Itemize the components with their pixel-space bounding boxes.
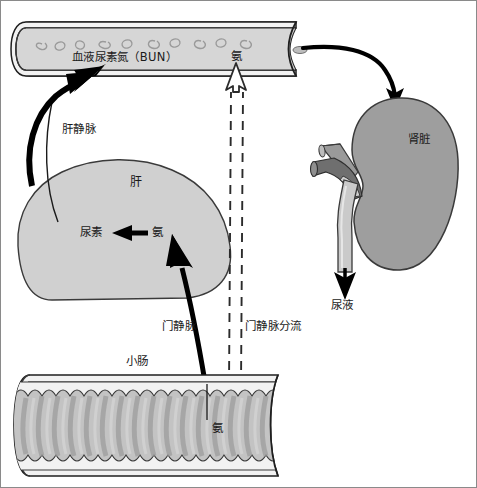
diagram-canvas: 血液尿素氮（BUN） 氨 肝静脉 肝 尿素 氨 肾脏 尿液 门静脉 门静脉分流 … [0, 0, 477, 488]
arrow-urine-output [334, 268, 356, 300]
label-small-intestine: 小肠 [126, 356, 149, 368]
small-intestine-organ [14, 375, 290, 476]
diagram-graphics [0, 0, 477, 488]
label-kidney: 肾脏 [408, 134, 431, 146]
label-ammonia-blood: 氨 [231, 51, 242, 63]
label-liver: 肝 [130, 176, 142, 188]
kidney-organ [311, 98, 459, 272]
label-portal-vein: 门静脉 [162, 321, 196, 333]
label-blood-urea-nitrogen: 血液尿素氮（BUN） [72, 52, 177, 64]
label-portal-shunt: 门静脉分流 [245, 321, 302, 333]
label-hepatic-vein: 肝静脉 [62, 124, 96, 136]
portal-shunt-dashed [226, 63, 246, 386]
label-urine: 尿液 [331, 300, 354, 312]
blood-vessel-systemic [11, 22, 307, 76]
label-ammonia-liver: 氨 [152, 227, 163, 239]
label-ammonia-intestine: 氨 [212, 423, 223, 435]
label-urea: 尿素 [80, 227, 103, 239]
